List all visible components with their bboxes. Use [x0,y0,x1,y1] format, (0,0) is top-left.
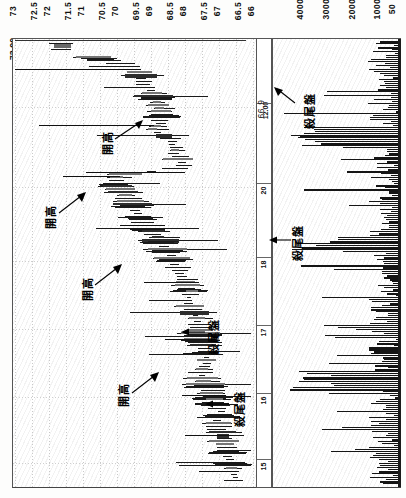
price-bar [177,276,187,277]
price-bar [188,372,213,373]
price-bar [233,477,238,478]
time-tick-mark-2 [257,257,271,258]
price-bar-body [189,317,205,319]
price-bar [160,138,180,139]
price-bar [182,294,199,295]
time-tick-1: 20 [257,187,271,194]
volume-bar [371,421,401,422]
volume-bar [372,301,401,302]
price-bar [177,279,197,280]
price-bar-long [185,435,233,436]
volume-bar [373,51,401,52]
price-bar-body [117,200,144,202]
price-bar-long [63,176,121,177]
annotation-arrow-shaweipan-4 [269,235,293,245]
time-tick-4: 16 [257,397,271,404]
volume-bar [371,425,401,426]
volume-bar-spike [322,297,401,298]
volume-bar [370,477,401,478]
price-bar [217,438,232,439]
volume-bar-spike [327,91,401,92]
volume-bar [293,387,401,388]
price-tick-7: 69.5 [127,6,146,16]
price-bar [187,297,191,298]
volume-bar [314,129,401,130]
price-bar [201,390,226,391]
time-tick-1-text: 20 [260,187,267,195]
volume-bar [370,323,401,324]
volume-bar [338,327,401,328]
annotation-arrow-kaigao-3 [93,263,123,287]
annotation-kaigao-1-text: 開高 [42,205,58,229]
volume-bar [370,117,401,118]
volume-tick-2-text: 2000 [347,0,357,19]
price-bar-body [187,377,219,379]
price-bar-body [106,188,135,190]
volume-bar [325,335,401,336]
annotation-arrow-shaweipan-1 [181,327,207,337]
price-bar-body [151,110,172,112]
price-bar [104,60,111,61]
time-tick-5-text: 15 [260,463,267,471]
volume-bar [302,145,401,146]
volume-tick-1: 3000 [316,4,337,14]
price-bar [129,219,154,220]
price-gridline-h-0 [13,107,257,108]
price-tick-3-text: 71.5 [63,2,73,21]
price-bar [184,309,202,310]
price-bar-body [209,440,239,442]
price-bar [231,474,238,475]
volume-bar [371,307,401,308]
price-bar [193,315,198,316]
price-bar [149,300,191,301]
annotation-shaweipan-3-text: 殺尾盤 [301,93,317,129]
volume-tick-4-text: 50 [387,4,397,14]
volume-tick-0: 4000 [290,4,311,14]
price-bar-body [148,128,157,130]
volume-bar [304,133,401,134]
volume-bar [371,403,401,404]
price-bar [213,420,222,421]
volume-bar [372,431,401,432]
price-bar-body [186,290,198,292]
price-bar [168,141,177,142]
price-tick-9-text: 68.5 [165,2,175,21]
volume-bar [335,337,401,338]
price-bar [206,426,232,427]
volume-bar [331,383,401,384]
price-tick-5: 70.5 [93,6,112,16]
volume-bar [371,59,401,60]
price-tick-10: 68 [178,6,188,16]
price-bar [104,87,155,88]
price-mid-label-text: 66.9 [256,100,266,119]
price-bar [131,222,154,223]
price-tick-14: 66 [246,6,256,16]
annotation-shaweipan-2-text: 殺尾盤 [231,391,247,427]
volume-bar [369,69,401,70]
volume-bar [322,429,401,430]
price-bar-body [206,422,231,424]
price-bar [194,321,201,322]
volume-bar [315,131,401,132]
price-bar [169,144,175,145]
price-bar [207,429,226,430]
volume-bar [329,393,401,394]
price-bar [136,84,150,85]
price-bar [224,480,242,481]
price-tick-12-text: 67 [212,6,222,16]
volume-bar [356,329,401,330]
price-bar [172,270,188,271]
volume-bar-spike [331,451,401,452]
price-bar [162,168,188,169]
volume-bar [370,457,401,458]
volume-bar [329,363,401,364]
volume-bar [369,417,401,418]
price-bar [15,40,246,41]
volume-bar [372,331,401,332]
price-bar-body [108,191,139,193]
volume-tick-4: 50 [387,4,397,14]
price-tick-0: 73 [8,6,18,16]
volume-panel: 殺尾盤 殺尾盤 [272,38,401,488]
price-bar-body [142,92,161,94]
volume-bar [369,447,401,448]
